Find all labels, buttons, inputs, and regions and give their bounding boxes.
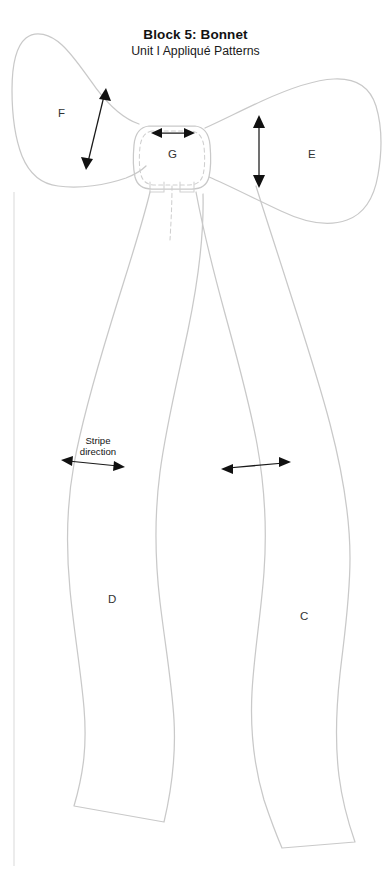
grain-arrow-d bbox=[61, 456, 125, 471]
piece-outline-c bbox=[196, 186, 355, 848]
pattern-sheet: Block 5: Bonnet Unit I Appliqué Patterns… bbox=[0, 0, 391, 885]
grain-arrow-c bbox=[221, 457, 291, 474]
grain-arrow-e bbox=[253, 115, 265, 188]
piece-seamline-g bbox=[139, 131, 204, 185]
grain-arrow-g bbox=[151, 128, 195, 138]
piece-outline-g bbox=[133, 126, 210, 189]
piece-outline-e bbox=[205, 79, 381, 223]
knot-fold-line bbox=[170, 186, 172, 240]
knot-tab-right bbox=[180, 182, 194, 192]
piece-outline-d bbox=[67, 192, 203, 822]
piece-outline-f bbox=[12, 34, 146, 187]
pattern-drawing bbox=[0, 0, 391, 885]
knot-tab-left bbox=[150, 182, 164, 192]
